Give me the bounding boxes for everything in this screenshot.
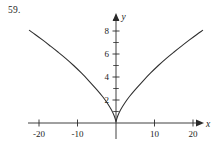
y-tick-label-6: 6 — [105, 49, 110, 59]
x-tick-label-neg10: -10 — [72, 129, 84, 139]
x-axis-label: x — [205, 119, 211, 129]
plot-area: -20 -10 10 20 2 4 6 8 x y — [0, 0, 220, 152]
y-tick-label-4: 4 — [105, 72, 110, 82]
x-tick-label-10: 10 — [150, 129, 160, 139]
x-axis-arrow-icon — [196, 120, 204, 127]
x-tick-label-neg20: -20 — [33, 129, 45, 139]
y-axis-label: y — [120, 12, 126, 22]
y-tick-label-8: 8 — [105, 26, 110, 36]
x-tick-label-20: 20 — [189, 129, 199, 139]
figure-container: 59. -20 -10 10 20 2 4 6 8 x — [0, 0, 220, 152]
